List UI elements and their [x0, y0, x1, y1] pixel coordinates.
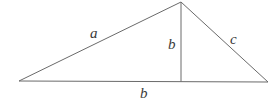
side-c-line	[181, 2, 268, 82]
triangle-diagram: a b c b	[0, 0, 278, 102]
label-side-c: c	[230, 31, 237, 47]
label-side-a: a	[90, 25, 98, 41]
label-base-b: b	[140, 85, 148, 101]
base-line	[19, 81, 268, 82]
label-altitude-b: b	[168, 36, 176, 52]
side-a-line	[19, 2, 181, 81]
